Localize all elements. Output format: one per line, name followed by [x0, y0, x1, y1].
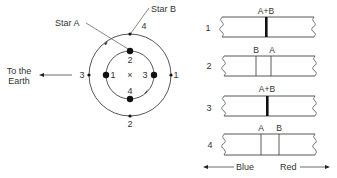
wavelength-axis: Blue Red: [203, 162, 330, 172]
orbit-diagram: × 2 1 3 4 4 3 1 2 Star A Star B To the E…: [7, 4, 179, 129]
earth-direction-arrowhead: [39, 73, 44, 77]
spectral-line-merged: [266, 96, 269, 116]
torn-edge-right: [313, 134, 317, 155]
star-a-label: Star A: [55, 18, 80, 28]
spectrum-panel-2: 2 B A: [206, 45, 316, 76]
torn-edge-left: [222, 134, 226, 155]
earth-label-line2: Earth: [8, 76, 30, 86]
torn-edge-right: [313, 56, 317, 76]
torn-edge-left: [222, 56, 226, 76]
star-a-position-4: [127, 96, 133, 102]
panel-number: 4: [207, 140, 212, 150]
blue-arrowhead-icon: [203, 165, 208, 169]
line-label-b: B: [253, 45, 259, 55]
center-of-mass-marker: ×: [127, 70, 132, 80]
red-label: Red: [280, 162, 297, 172]
line-label-a: A: [258, 123, 264, 133]
torn-edge-right: [313, 96, 317, 116]
inner-label-left: 1: [110, 70, 115, 80]
spectrum-panel-3: 3 A+B: [206, 84, 316, 116]
spectrum-panel-4: 4 A B: [207, 123, 316, 155]
inner-label-bottom: 4: [127, 86, 132, 96]
panel-number: 2: [206, 61, 211, 71]
torn-edge-right: [312, 17, 316, 37]
line-label: A+B: [259, 84, 276, 94]
panel-number: 3: [206, 103, 211, 113]
outer-label-bottom: 2: [127, 119, 132, 129]
outer-label-right: 1: [173, 70, 178, 80]
red-arrowhead-icon: [325, 165, 330, 169]
star-a-position-3: [151, 72, 157, 78]
panel-number: 1: [205, 23, 210, 33]
line-label-a: A: [269, 45, 275, 55]
torn-edge-left: [222, 96, 226, 116]
star-a-position-1: [103, 72, 109, 78]
star-b-position-1: [169, 73, 172, 76]
torn-edge-left: [220, 17, 224, 37]
star-a-leader-line: [86, 23, 128, 49]
outer-label-top: 4: [141, 21, 146, 31]
spectrum-panel-1: 1 A+B: [205, 6, 315, 37]
inner-label-top: 2: [127, 55, 132, 65]
outer-label-left: 3: [79, 70, 84, 80]
line-label-b: B: [276, 123, 282, 133]
star-b-position-2: [128, 114, 131, 117]
earth-label-line1: To the: [7, 66, 32, 76]
line-label: A+B: [258, 6, 275, 16]
inner-label-right: 3: [142, 70, 147, 80]
blue-label: Blue: [236, 162, 254, 172]
star-b-label: Star B: [151, 4, 176, 14]
spectral-line-merged: [265, 17, 268, 37]
binary-star-diagram: × 2 1 3 4 4 3 1 2 Star A Star B To the E…: [0, 0, 337, 178]
star-b-position-3: [87, 73, 90, 76]
spectra-panels: 1 A+B 2 B A 3 A+B: [203, 6, 330, 172]
